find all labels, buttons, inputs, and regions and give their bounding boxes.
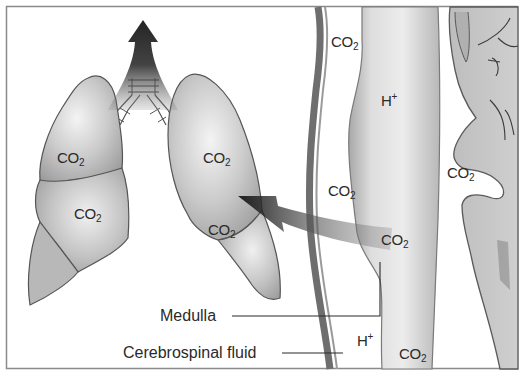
callout-medulla: Medulla — [160, 308, 216, 324]
label-co2-cerebellum-gap: CO2 — [447, 165, 474, 183]
label-co2-left-upper: CO2 — [57, 150, 84, 168]
label-co2-csf-top: CO2 — [331, 34, 358, 52]
label-co2-left-middle: CO2 — [74, 206, 101, 224]
diagram-stage: CO2 CO2 CO2 CO2 CO2 H+ CO2 CO2 CO2 H+ CO… — [0, 0, 522, 376]
illustration — [0, 0, 522, 376]
label-co2-right-upper: CO2 — [203, 150, 230, 168]
label-co2-right-lower: CO2 — [208, 222, 235, 240]
label-co2-medulla-bottom: CO2 — [399, 346, 426, 364]
label-co2-medulla-middle: CO2 — [381, 232, 408, 250]
callout-cerebrospinal-fluid: Cerebrospinal fluid — [123, 345, 256, 361]
label-hplus-csf-bottom: H+ — [357, 332, 373, 348]
label-co2-csf-middle: CO2 — [328, 183, 355, 201]
label-hplus-medulla-top: H+ — [381, 92, 397, 108]
